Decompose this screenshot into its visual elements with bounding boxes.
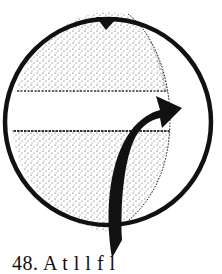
equatorial-band <box>0 92 218 130</box>
figure-caption: 48. A t l l f l <box>12 252 222 274</box>
